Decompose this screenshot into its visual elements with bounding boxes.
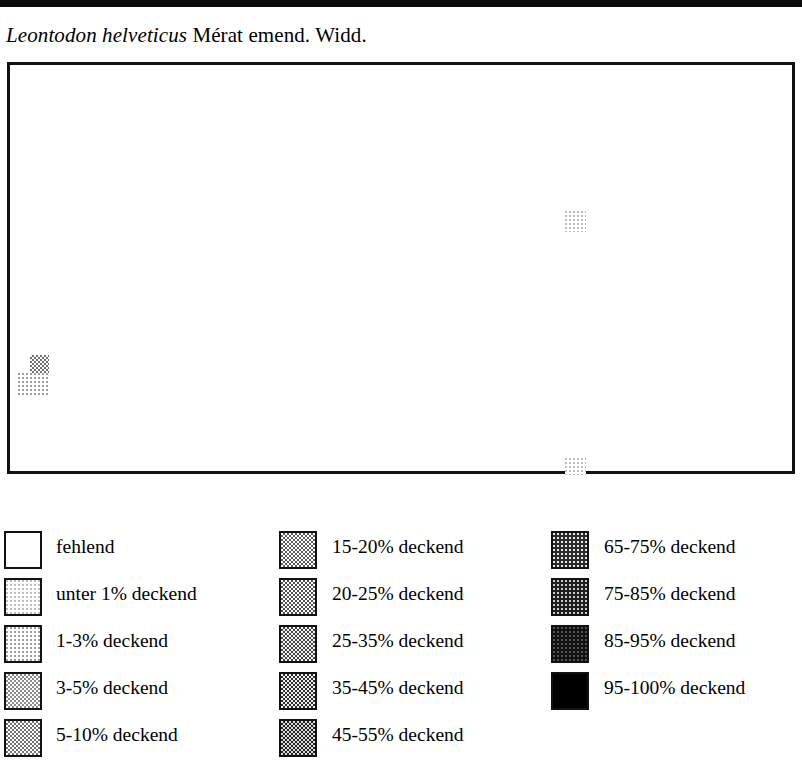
legend-label: 85-95% deckend	[604, 626, 736, 656]
legend-label: 20-25% deckend	[332, 579, 464, 609]
marker-south-east	[565, 458, 586, 475]
distribution-map	[7, 62, 795, 474]
legend-label: 15-20% deckend	[332, 532, 464, 562]
legend-swatch-level-11	[551, 578, 589, 616]
legend-swatch-level-5	[279, 531, 317, 569]
legend-swatch-level-10	[551, 531, 589, 569]
legend-label: 65-75% deckend	[604, 532, 736, 562]
legend-swatch-level-7	[279, 625, 317, 663]
legend-swatch-level-3	[4, 672, 42, 710]
legend-label: 95-100% deckend	[604, 673, 745, 703]
legend-label: 25-35% deckend	[332, 626, 464, 656]
coverage-legend: fehlendunter 1% deckend1-3% deckend3-5% …	[0, 520, 802, 772]
map-canvas	[10, 65, 792, 471]
legend-swatch-level-2	[4, 625, 42, 663]
legend-label: 3-5% deckend	[56, 673, 168, 703]
legend-label: 1-3% deckend	[56, 626, 168, 656]
legend-label: 45-55% deckend	[332, 720, 464, 750]
legend-label: 75-85% deckend	[604, 579, 736, 609]
legend-swatch-level-12	[551, 625, 589, 663]
legend-swatch-level-6	[279, 578, 317, 616]
marker-centre-east	[565, 211, 586, 232]
top-rule	[0, 0, 802, 7]
legend-label: fehlend	[56, 532, 114, 562]
species-scientific-name: Leontodon helveticus	[6, 23, 187, 47]
legend-label: unter 1% deckend	[56, 579, 197, 609]
legend-swatch-level-1	[4, 578, 42, 616]
legend-swatch-level-9	[279, 719, 317, 757]
legend-swatch-level-13	[551, 672, 589, 710]
legend-label: 5-10% deckend	[56, 720, 178, 750]
legend-swatch-level-8	[279, 672, 317, 710]
legend-swatch-level-0	[4, 531, 42, 569]
page-title: Leontodon helveticus Mérat emend. Widd.	[6, 22, 367, 48]
marker-lower-left	[18, 373, 49, 395]
legend-label: 35-45% deckend	[332, 673, 464, 703]
species-authority: Mérat emend. Widd.	[187, 23, 367, 47]
legend-swatch-level-4	[4, 719, 42, 757]
